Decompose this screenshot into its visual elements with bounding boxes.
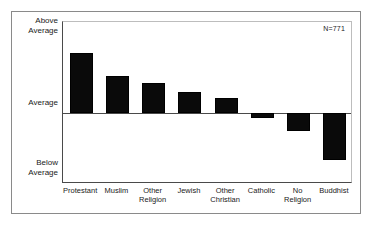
x-axis-tick-label: Jewish (171, 186, 207, 195)
bar (178, 92, 201, 113)
bar (142, 83, 165, 113)
bar (70, 53, 93, 113)
x-axis-tick-label: Buddhist (316, 186, 352, 195)
sample-size-annotation: N=771 (323, 25, 345, 32)
chart-figure: Above Average Average Below Average N=77… (11, 11, 361, 214)
x-axis-tick-label: Other Christian (207, 186, 243, 204)
bar (215, 98, 238, 113)
bar (106, 76, 129, 113)
x-axis-tick-label: Catholic (243, 186, 279, 195)
x-axis-labels: ProtestantMuslimOther ReligionJewishOthe… (62, 186, 352, 214)
bar (323, 113, 346, 160)
y-axis-label-above-average: Above Average (12, 16, 58, 35)
x-axis-tick-label: Other Religion (135, 186, 171, 204)
bar (251, 113, 274, 118)
x-axis-tick-label: No Religion (280, 186, 316, 204)
plot-area: N=771 (62, 21, 352, 183)
y-axis-label-average: Average (12, 98, 58, 108)
bar (287, 113, 310, 131)
y-axis-label-below-average: Below Average (12, 158, 58, 177)
x-axis-tick-label: Muslim (98, 186, 134, 195)
x-axis-tick-label: Protestant (62, 186, 98, 195)
